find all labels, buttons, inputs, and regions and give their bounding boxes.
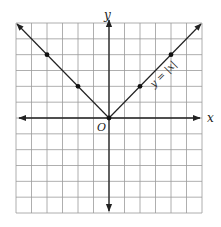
data-point xyxy=(76,84,81,89)
axes xyxy=(19,20,200,211)
absolute-value-graph: x y O y = |x| xyxy=(0,0,221,227)
y-axis-label: y xyxy=(103,8,111,22)
data-point xyxy=(45,52,50,57)
origin-label: O xyxy=(97,121,106,134)
data-point xyxy=(138,84,143,89)
data-point xyxy=(107,116,112,121)
data-point xyxy=(169,52,174,57)
x-axis-label: x xyxy=(207,111,214,125)
